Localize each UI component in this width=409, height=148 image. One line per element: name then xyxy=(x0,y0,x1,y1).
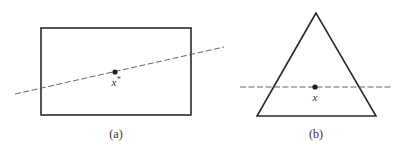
figure-svg xyxy=(0,0,409,148)
point-label-a: x* xyxy=(112,77,121,88)
point-label-a-sup: * xyxy=(116,75,120,84)
figure-canvas: x* x (a) (b) xyxy=(0,0,409,148)
point-x xyxy=(312,84,317,89)
caption-b: (b) xyxy=(309,128,323,140)
caption-a: (a) xyxy=(109,128,122,140)
point-label-b: x xyxy=(313,92,318,103)
point-x-star xyxy=(112,69,117,74)
